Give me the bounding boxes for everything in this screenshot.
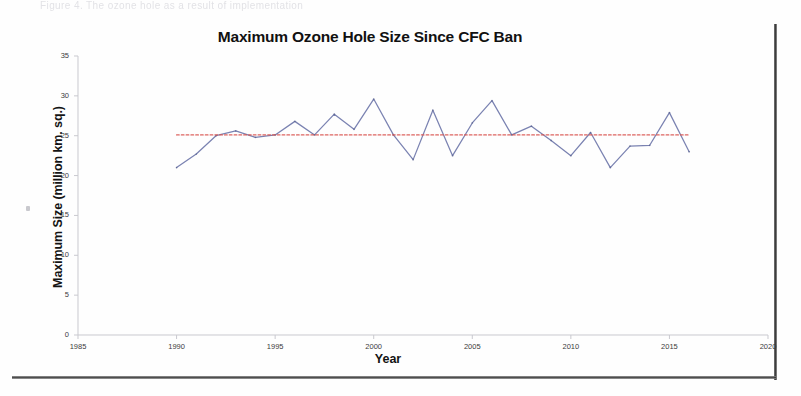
data-point	[432, 109, 434, 111]
data-point	[235, 130, 237, 132]
y-axis-ticks	[74, 56, 78, 335]
data-series-group	[176, 98, 690, 168]
data-point	[649, 144, 651, 146]
x-axis-tick-label: 2000	[354, 342, 394, 351]
data-point	[373, 98, 375, 100]
y-axis-tick-label: 25	[47, 131, 69, 140]
data-point	[452, 155, 454, 157]
data-point	[629, 145, 631, 147]
data-point	[471, 122, 473, 124]
x-axis-tick-label: 1985	[58, 342, 98, 351]
y-axis-tick-label: 0	[47, 330, 69, 339]
data-point	[491, 100, 493, 102]
y-axis-tick-label: 35	[47, 51, 69, 60]
data-point	[590, 132, 592, 134]
data-point	[333, 113, 335, 115]
x-axis-tick-label: 2015	[649, 342, 689, 351]
axis-lines	[78, 56, 768, 335]
data-point	[570, 155, 572, 157]
x-axis-tick-label: 1990	[157, 342, 197, 351]
x-axis-tick-label: 2020	[748, 342, 788, 351]
x-axis-tick-label: 2005	[452, 342, 492, 351]
x-axis-ticks	[78, 335, 768, 339]
y-axis-tick-label: 10	[47, 250, 69, 259]
scanned-page: Figure 4. The ozone hole as a result of …	[0, 0, 801, 396]
y-axis-tick-label: 20	[47, 171, 69, 180]
data-point	[412, 159, 414, 161]
y-axis-tick-label: 5	[47, 290, 69, 299]
data-point	[294, 120, 296, 122]
plot-area	[0, 0, 801, 396]
data-point	[176, 167, 178, 169]
data-point	[609, 167, 611, 169]
data-point	[353, 128, 355, 130]
y-axis-tick-label: 15	[47, 210, 69, 219]
data-point	[688, 151, 690, 153]
x-axis-tick-label: 2010	[551, 342, 591, 351]
data-point	[550, 140, 552, 142]
data-point	[255, 136, 257, 138]
x-axis-tick-label: 1995	[255, 342, 295, 351]
data-point	[669, 112, 671, 114]
y-axis-tick-label: 30	[47, 91, 69, 100]
data-point	[531, 125, 533, 127]
data-point	[195, 153, 197, 155]
line-chart: Maximum Ozone Hole Size Since CFC Ban Ma…	[0, 0, 801, 396]
